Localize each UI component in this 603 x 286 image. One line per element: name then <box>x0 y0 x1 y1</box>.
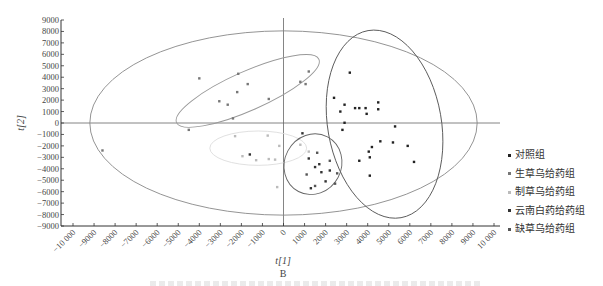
data-point <box>349 71 351 73</box>
data-point <box>249 153 251 155</box>
data-point <box>304 83 306 85</box>
y-tick-label: 4000 <box>42 72 59 82</box>
group-ellipse <box>273 124 352 205</box>
x-tick-label: 1000 <box>290 227 309 246</box>
panel-label: B <box>280 268 287 279</box>
data-point <box>324 180 326 182</box>
x-axis-title: t[1] <box>275 255 291 266</box>
legend-marker-icon <box>508 191 511 194</box>
data-point <box>305 173 307 175</box>
legend-marker-icon <box>508 228 511 231</box>
data-point <box>308 70 310 72</box>
x-tick-label: −10 000 <box>50 227 77 254</box>
data-point <box>308 150 310 152</box>
data-point <box>218 100 220 102</box>
data-point <box>377 101 379 103</box>
y-tick-label: 6000 <box>42 49 59 59</box>
data-point <box>310 187 312 189</box>
data-point <box>406 145 408 147</box>
legend: 对照组 生草乌给药组 制草乌给药组 云南白药给药组 缺草乌给药组 <box>508 146 585 239</box>
x-tick-label: −5000 <box>160 227 182 249</box>
data-point <box>394 125 396 127</box>
data-point <box>334 182 336 184</box>
data-point <box>278 145 280 147</box>
legend-marker-icon <box>508 154 511 157</box>
legend-label: 制草乌给药组 <box>515 183 575 202</box>
data-point <box>333 97 335 99</box>
data-point <box>413 161 415 163</box>
x-tick-label: −4000 <box>181 227 203 249</box>
data-point <box>247 83 249 85</box>
data-point <box>255 159 257 161</box>
y-tick-label: 9000 <box>42 15 59 25</box>
y-tick-label: 0 <box>55 118 59 128</box>
y-tick-label: 8000 <box>42 26 59 36</box>
y-tick-label: −8000 <box>37 210 59 220</box>
data-point <box>299 144 301 146</box>
y-tick-label: −1000 <box>37 129 59 139</box>
data-point <box>227 103 229 105</box>
data-point <box>232 117 234 119</box>
x-tick-label: −7000 <box>118 227 140 249</box>
legend-item: 制草乌给药组 <box>508 183 585 202</box>
y-tick-label: 2000 <box>42 95 59 105</box>
data-point <box>368 150 370 152</box>
data-point <box>101 149 103 151</box>
x-tick-label: −8000 <box>97 227 119 249</box>
x-tick-label: −1000 <box>244 227 266 249</box>
data-point <box>336 172 338 174</box>
data-point <box>268 98 270 100</box>
data-point <box>329 169 331 171</box>
data-point <box>236 91 238 93</box>
legend-item: 对照组 <box>508 146 585 165</box>
x-tick-label: 3000 <box>332 227 351 246</box>
data-point <box>365 113 367 115</box>
data-point <box>339 110 341 112</box>
data-point <box>329 160 331 162</box>
x-tick-label: 10 000 <box>475 227 499 251</box>
y-tick-label: −3000 <box>37 152 59 162</box>
data-point <box>318 163 320 165</box>
x-tick-label: −2000 <box>223 227 245 249</box>
x-tick-label: 5000 <box>374 227 393 246</box>
cropped-caption <box>150 281 480 286</box>
x-tick-label: −9000 <box>76 227 98 249</box>
y-tick-label: 1000 <box>42 107 59 117</box>
data-point <box>314 166 316 168</box>
plot-area <box>61 18 500 228</box>
group-ellipse <box>169 42 327 141</box>
data-point <box>379 140 381 142</box>
legend-item: 缺草乌给药组 <box>508 220 585 239</box>
data-point <box>343 103 345 105</box>
data-point <box>358 160 360 162</box>
data-point <box>301 132 303 134</box>
y-axis-title: t[2] <box>15 115 26 131</box>
score-plot: 9000800070006000500040003000200010000−10… <box>0 0 603 286</box>
legend-label: 生草乌给药组 <box>515 165 575 184</box>
x-tick-label: 0 <box>278 227 288 237</box>
y-tick-label: −4000 <box>37 164 59 174</box>
data-point <box>320 171 322 173</box>
x-tick-label: 2000 <box>311 227 330 246</box>
data-point <box>267 134 269 136</box>
data-point <box>188 129 190 131</box>
x-tick-label: 7000 <box>416 227 435 246</box>
data-point <box>299 81 301 83</box>
data-point <box>364 107 366 109</box>
data-point <box>276 186 278 188</box>
data-point <box>341 129 343 131</box>
data-point <box>241 155 243 157</box>
data-point <box>198 77 200 79</box>
data-point <box>371 146 373 148</box>
data-point <box>234 135 236 137</box>
legend-item: 云南白药给药组 <box>508 202 585 221</box>
legend-label: 云南白药给药组 <box>515 202 585 221</box>
group-ellipse <box>210 131 307 165</box>
data-point <box>343 122 345 124</box>
data-point <box>354 107 356 109</box>
data-point <box>237 73 239 75</box>
data-point <box>369 174 371 176</box>
y-tick-label: −5000 <box>37 175 59 185</box>
data-point <box>274 158 276 160</box>
y-tick-label: −6000 <box>37 187 59 197</box>
